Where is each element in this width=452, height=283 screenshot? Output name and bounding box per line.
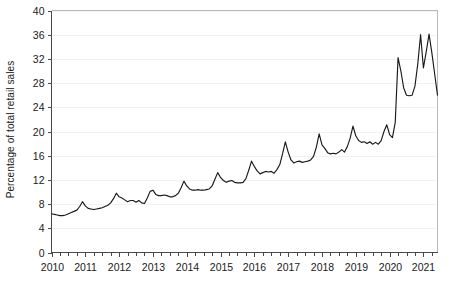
x-axis-ticks — [53, 253, 433, 258]
x-tick-label: 2017 — [277, 261, 301, 273]
y-tick-label: 28 — [33, 77, 45, 89]
x-tick-label: 2018 — [311, 261, 335, 273]
y-axis-ticks — [48, 12, 52, 254]
y-tick-label: 40 — [33, 5, 45, 17]
data-series — [52, 34, 438, 216]
x-tick-label: 2010 — [41, 261, 65, 273]
y-tick-label: 24 — [33, 101, 45, 113]
x-tick-label: 2019 — [345, 261, 369, 273]
plot-frame — [52, 11, 438, 253]
series-line-retail-percentage — [52, 34, 438, 216]
y-axis-tick-labels: 0481216202428323640 — [33, 5, 45, 259]
y-tick-label: 8 — [39, 198, 45, 210]
y-tick-label: 20 — [33, 126, 45, 138]
line-chart-plot: 0481216202428323640 20102011201220132014… — [0, 0, 452, 283]
chart-container: Percentage of total retail sales 0481216… — [0, 0, 452, 283]
x-tick-label: 2011 — [74, 261, 97, 273]
y-tick-label: 0 — [39, 247, 45, 259]
x-axis-tick-labels: 2010201120122013201420152016201720182019… — [41, 261, 436, 273]
y-tick-label: 16 — [33, 150, 45, 162]
x-tick-label: 2020 — [379, 261, 403, 273]
x-tick-label: 2015 — [210, 261, 234, 273]
y-tick-label: 4 — [39, 222, 45, 234]
x-tick-label: 2014 — [176, 261, 200, 273]
x-tick-label: 2013 — [142, 261, 166, 273]
y-tick-label: 36 — [33, 29, 45, 41]
x-tick-label: 2012 — [108, 261, 132, 273]
x-tick-label: 2021 — [412, 261, 436, 273]
y-tick-label: 12 — [33, 174, 45, 186]
x-tick-label: 2016 — [243, 261, 267, 273]
gridlines — [52, 12, 438, 229]
y-tick-label: 32 — [33, 53, 45, 65]
